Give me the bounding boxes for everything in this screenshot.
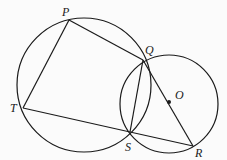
segment-ts [23, 108, 130, 132]
segment-pq [69, 20, 143, 60]
label-t: T [10, 101, 18, 115]
label-o: O [175, 88, 184, 102]
geometry-diagram: P Q T S R O [0, 0, 227, 160]
label-s: S [125, 140, 131, 154]
segment-sr [130, 132, 193, 146]
segment-pt [23, 20, 69, 108]
label-r: R [194, 146, 203, 160]
center-point-o [167, 100, 171, 104]
label-q: Q [145, 43, 154, 57]
line-segments [23, 20, 193, 146]
label-p: P [61, 5, 70, 19]
